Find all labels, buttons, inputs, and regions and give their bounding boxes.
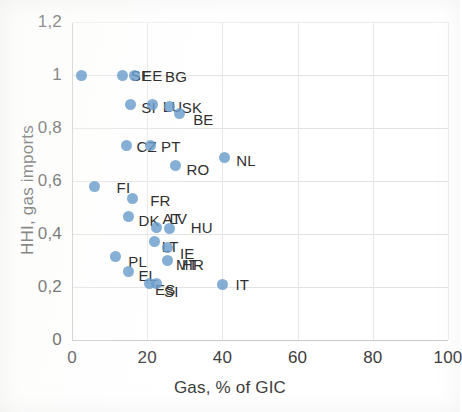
- data-point: [219, 152, 230, 163]
- data-point-label: HR: [182, 255, 204, 272]
- data-point: [125, 99, 136, 110]
- data-point-label: SI: [164, 283, 179, 300]
- data-point-label: RO: [186, 161, 209, 178]
- x-tick-label: 20: [138, 348, 157, 368]
- data-point: [76, 70, 87, 81]
- data-point: [117, 70, 128, 81]
- x-tick-label: 0: [67, 348, 77, 368]
- data-point-label: PT: [161, 138, 181, 155]
- data-point-label: FR: [150, 192, 170, 209]
- data-point-label: NL: [236, 152, 256, 169]
- x-tick-label: 100: [434, 348, 462, 368]
- gridline-horizontal: [72, 234, 448, 235]
- y-tick-label: 0: [2, 330, 62, 350]
- data-point: [123, 266, 134, 277]
- data-point: [147, 99, 158, 110]
- data-point: [151, 222, 162, 233]
- data-point-label: EE: [142, 67, 162, 84]
- x-tick-label: 60: [288, 348, 307, 368]
- gridline-vertical: [222, 22, 223, 340]
- y-axis-line: [72, 22, 73, 340]
- gridline-vertical: [298, 22, 299, 340]
- data-point: [121, 140, 132, 151]
- data-point: [174, 108, 185, 119]
- data-point: [170, 160, 181, 171]
- data-point: [217, 279, 228, 290]
- data-point-label: HU: [191, 218, 213, 235]
- data-point: [110, 251, 121, 262]
- data-point: [151, 278, 162, 289]
- data-point-label: BG: [165, 68, 187, 85]
- x-tick-label: 40: [213, 348, 232, 368]
- data-point: [127, 193, 138, 204]
- plot-frame-right: [448, 22, 449, 340]
- data-point-label: BE: [193, 111, 213, 128]
- gridline-horizontal: [72, 287, 448, 288]
- gridline-vertical: [373, 22, 374, 340]
- data-point: [89, 181, 100, 192]
- y-tick-label: 1,2: [2, 12, 62, 32]
- x-axis-line: [72, 340, 448, 341]
- y-axis-title: HHI, gas imports: [18, 70, 38, 310]
- data-point: [129, 70, 140, 81]
- plot-frame-top: [72, 22, 448, 23]
- gridline-horizontal: [72, 128, 448, 129]
- x-axis-title: Gas, % of GIC: [0, 378, 460, 398]
- x-tick-label: 80: [363, 348, 382, 368]
- data-point-label: IT: [235, 276, 249, 293]
